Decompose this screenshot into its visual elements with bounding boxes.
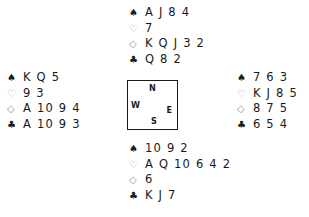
diamond-icon: ◇ bbox=[237, 101, 253, 117]
west-hearts-cards: 9 3 bbox=[23, 86, 45, 100]
spade-icon: ♠ bbox=[7, 70, 23, 86]
north-diamonds: ◇K Q J 3 2 bbox=[129, 36, 205, 52]
south-spades-cards: 10 9 2 bbox=[145, 141, 189, 155]
east-clubs: ♣6 5 4 bbox=[237, 117, 298, 133]
spade-icon: ♠ bbox=[129, 5, 145, 21]
north-diamonds-cards: K Q J 3 2 bbox=[145, 36, 205, 50]
west-diamonds-cards: A 10 9 4 bbox=[23, 101, 81, 115]
south-hearts: ♡A Q 10 6 4 2 bbox=[129, 157, 231, 173]
club-icon: ♣ bbox=[129, 188, 145, 204]
north-hearts-cards: 7 bbox=[145, 21, 154, 35]
compass-box: N W E S bbox=[127, 80, 178, 130]
north-clubs: ♣Q 8 2 bbox=[129, 52, 205, 68]
compass-west: W bbox=[131, 100, 140, 110]
south-hand: ♠10 9 2 ♡A Q 10 6 4 2 ◇6 ♣K J 7 bbox=[129, 141, 231, 203]
compass-south: S bbox=[151, 116, 157, 126]
east-spades-cards: 7 6 3 bbox=[253, 70, 288, 84]
north-spades-cards: A J 8 4 bbox=[145, 5, 190, 19]
west-hearts: ♡9 3 bbox=[7, 86, 81, 102]
spade-icon: ♠ bbox=[129, 141, 145, 157]
west-spades: ♠K Q 5 bbox=[7, 70, 81, 86]
north-clubs-cards: Q 8 2 bbox=[145, 52, 182, 66]
club-icon: ♣ bbox=[129, 52, 145, 68]
east-diamonds-cards: 8 7 5 bbox=[253, 101, 288, 115]
south-clubs: ♣K J 7 bbox=[129, 188, 231, 204]
east-spades: ♠7 6 3 bbox=[237, 70, 298, 86]
heart-icon: ♡ bbox=[237, 86, 253, 102]
north-hearts: ♡7 bbox=[129, 21, 205, 37]
north-spades: ♠A J 8 4 bbox=[129, 5, 205, 21]
club-icon: ♣ bbox=[7, 117, 23, 133]
west-diamonds: ◇A 10 9 4 bbox=[7, 101, 81, 117]
heart-icon: ♡ bbox=[129, 157, 145, 173]
west-spades-cards: K Q 5 bbox=[23, 70, 60, 84]
south-diamonds: ◇6 bbox=[129, 172, 231, 188]
west-clubs-cards: A 10 9 3 bbox=[23, 117, 81, 131]
diamond-icon: ◇ bbox=[129, 172, 145, 188]
south-spades: ♠10 9 2 bbox=[129, 141, 231, 157]
south-hearts-cards: A Q 10 6 4 2 bbox=[145, 157, 231, 171]
east-hearts: ♡K J 8 5 bbox=[237, 86, 298, 102]
east-clubs-cards: 6 5 4 bbox=[253, 117, 288, 131]
diamond-icon: ◇ bbox=[129, 36, 145, 52]
club-icon: ♣ bbox=[237, 117, 253, 133]
east-hand: ♠7 6 3 ♡K J 8 5 ◇8 7 5 ♣6 5 4 bbox=[237, 70, 298, 132]
heart-icon: ♡ bbox=[7, 86, 23, 102]
south-diamonds-cards: 6 bbox=[145, 172, 154, 186]
compass-north: N bbox=[149, 83, 156, 93]
spade-icon: ♠ bbox=[237, 70, 253, 86]
north-hand: ♠A J 8 4 ♡7 ◇K Q J 3 2 ♣Q 8 2 bbox=[129, 5, 205, 67]
east-hearts-cards: K J 8 5 bbox=[253, 86, 298, 100]
diamond-icon: ◇ bbox=[7, 101, 23, 117]
compass-east: E bbox=[166, 105, 172, 115]
east-diamonds: ◇8 7 5 bbox=[237, 101, 298, 117]
west-clubs: ♣A 10 9 3 bbox=[7, 117, 81, 133]
west-hand: ♠K Q 5 ♡9 3 ◇A 10 9 4 ♣A 10 9 3 bbox=[7, 70, 81, 132]
south-clubs-cards: K J 7 bbox=[145, 188, 177, 202]
heart-icon: ♡ bbox=[129, 21, 145, 37]
